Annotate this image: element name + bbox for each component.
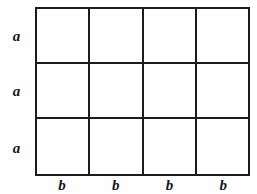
grid-cell — [90, 9, 143, 64]
column-label-row: b b b b — [35, 178, 250, 193]
grid-cell — [197, 64, 250, 119]
row-label-0: a — [0, 29, 33, 44]
grid-cell — [37, 119, 90, 176]
column-label-2: b — [143, 178, 197, 193]
grid-cell — [197, 9, 250, 64]
grid-cell — [144, 64, 197, 119]
row-label-2: a — [0, 141, 33, 156]
grid-cell — [90, 64, 143, 119]
grid-cell — [37, 64, 90, 119]
grid-cell — [144, 119, 197, 176]
row-label-1: a — [0, 84, 33, 99]
grid-cell — [90, 119, 143, 176]
column-label-3: b — [196, 178, 250, 193]
grid-cell — [37, 9, 90, 64]
column-label-0: b — [35, 178, 89, 193]
column-label-1: b — [89, 178, 143, 193]
grid-cell — [144, 9, 197, 64]
figure-canvas: a a a b b b b — [0, 0, 257, 194]
rectangle-grid — [35, 7, 250, 176]
grid-cell — [197, 119, 250, 176]
